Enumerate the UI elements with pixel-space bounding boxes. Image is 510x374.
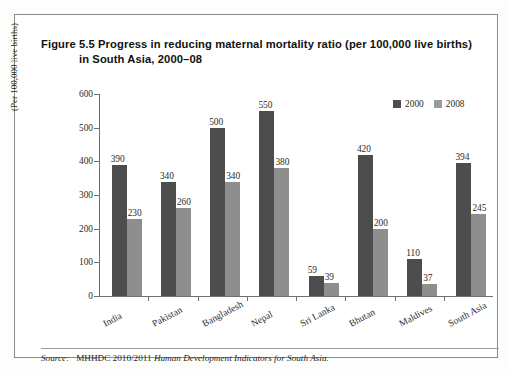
figure-title-line-2: in South Asia, 2000–08 [41, 52, 491, 67]
y-axis-tick-label: 300 [79, 190, 93, 200]
x-axis-label-pakistan: Pakistan [150, 304, 184, 329]
bar-group: 550380 [259, 94, 289, 296]
bar-2008-bhutan[interactable] [373, 229, 388, 296]
bar-2000-nepal[interactable] [259, 111, 274, 296]
x-axis-category-labels: IndiaPakistanBangladeshNepalSri LankaBhu… [99, 301, 499, 351]
bar-value-label: 380 [275, 157, 289, 167]
bar-2000-maldives[interactable] [407, 259, 422, 296]
y-axis-tick-label: 100 [79, 257, 93, 267]
bar-value-label: 340 [160, 171, 174, 181]
bar-group: 340260 [161, 94, 191, 296]
source-plain: MHHDC 2010/2011 [76, 353, 151, 363]
y-axis-line [99, 94, 100, 296]
x-axis-label-nepal: Nepal [249, 308, 274, 328]
source-italic: Human Development Indicators for South A… [154, 353, 329, 363]
x-axis-label-bhutan: Bhutan [347, 306, 377, 329]
figure-title: Figure 5.5 Progress in reducing maternal… [41, 37, 491, 67]
bar-2000-india[interactable] [112, 165, 127, 296]
y-axis-tick-label: 500 [79, 123, 93, 133]
bar-2000-bangladesh[interactable] [210, 128, 225, 296]
y-axis-tick [94, 296, 99, 297]
bar-2008-maldives[interactable] [422, 284, 437, 296]
bar-value-label: 260 [177, 197, 191, 207]
y-axis-tick [94, 229, 99, 230]
bar-group: 390230 [112, 94, 142, 296]
bar-value-label: 340 [226, 171, 240, 181]
source-prefix: Source: [41, 353, 69, 363]
bar-2008-bangladesh[interactable] [225, 182, 240, 296]
bar-value-label: 200 [374, 218, 388, 228]
bar-value-label: 500 [209, 117, 223, 127]
x-axis-label-maldives: Maldives [397, 302, 434, 328]
bar-value-label: 37 [423, 273, 432, 283]
y-axis-tick [94, 195, 99, 196]
bar-2000-sri-lanka[interactable] [309, 276, 324, 296]
source-note: Source: MHHDC 2010/2011 Human Developmen… [41, 353, 499, 363]
x-axis-label-india: India [101, 310, 124, 329]
bar-value-label: 59 [308, 265, 317, 275]
y-axis-tick-labels: 0100200300400500600 [45, 94, 93, 296]
y-axis-tick-label: 400 [79, 156, 93, 166]
x-axis-label-south-asia: South Asia [446, 299, 488, 328]
bar-2008-south-asia[interactable] [471, 214, 486, 296]
bar-2000-south-asia[interactable] [456, 163, 471, 296]
bar-2008-pakistan[interactable] [176, 208, 191, 296]
y-axis-tick [94, 128, 99, 129]
plot-area: 3902303402605003405503805939420200110373… [99, 94, 493, 296]
y-axis-tick [94, 262, 99, 263]
bar-value-label: 39 [325, 272, 334, 282]
bar-value-label: 420 [357, 144, 371, 154]
bar-2008-sri-lanka[interactable] [324, 283, 339, 296]
bar-2000-pakistan[interactable] [161, 182, 176, 296]
figure-title-line-1: Figure 5.5 Progress in reducing maternal… [41, 38, 472, 50]
bar-group: 420200 [358, 94, 388, 296]
bar-value-label: 550 [258, 100, 272, 110]
bar-2008-india[interactable] [127, 219, 142, 296]
bar-2008-nepal[interactable] [274, 168, 289, 296]
x-axis-label-sri-lanka: Sri Lanka [298, 301, 336, 328]
y-axis-tick [94, 94, 99, 95]
bar-2000-bhutan[interactable] [358, 155, 373, 296]
x-axis-label-bangladesh: Bangladesh [200, 298, 245, 329]
y-axis-title: (Per 100,000 live births) [9, 23, 19, 111]
bar-value-label: 245 [472, 203, 486, 213]
y-axis-tick-label: 600 [79, 89, 93, 99]
bar-value-label: 230 [128, 208, 142, 218]
page-background: Figure 5.5 Progress in reducing maternal… [0, 0, 510, 374]
bar-value-label: 110 [406, 248, 420, 258]
source-divider [41, 348, 499, 349]
bar-group: 500340 [210, 94, 240, 296]
y-axis-tick-label: 0 [88, 291, 93, 301]
y-axis-tick [94, 161, 99, 162]
bar-group: 394245 [456, 94, 486, 296]
figure-frame: Figure 5.5 Progress in reducing maternal… [14, 14, 498, 358]
bar-value-label: 390 [111, 154, 125, 164]
bar-group: 11037 [407, 94, 437, 296]
bar-group: 5939 [309, 94, 339, 296]
bar-value-label: 394 [455, 152, 469, 162]
y-axis-tick-label: 200 [79, 224, 93, 234]
